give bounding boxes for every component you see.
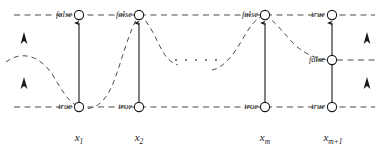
ellipsis-dot (195, 59, 197, 61)
column-xm1-middle-node (327, 55, 336, 64)
figure-canvas: false false false true false true true t… (0, 0, 389, 157)
column-xm (260, 10, 269, 111)
column-x1-top-node (74, 10, 83, 19)
variable-subscript: m (265, 137, 270, 146)
column-x2-bottom-node (134, 102, 143, 111)
ellipsis-dot (185, 59, 187, 61)
ellipsis-dot (175, 59, 177, 61)
column-xm1-top-node (327, 10, 336, 19)
dashed-curve-mid-segment (79, 15, 139, 108)
column-xm1-bottom-node (327, 102, 336, 111)
column-x1-bottom-label: true (38, 102, 72, 111)
variable-label-xm: xm (245, 132, 285, 146)
column-xm-bottom-label: true (224, 102, 258, 111)
column-xm1-top-label: true (289, 10, 325, 19)
variable-subscript: 1 (80, 137, 84, 146)
column-x1-top-label: false (36, 10, 72, 19)
ellipsis-dot (205, 59, 207, 61)
dashed-curve-left-segment (6, 56, 79, 107)
column-x2 (134, 10, 143, 111)
ellipsis-dots (175, 59, 217, 61)
column-x2-top-node (134, 10, 143, 19)
column-xm1-middle-label: false (289, 55, 325, 64)
variable-label-x1: x1 (59, 132, 99, 146)
variable-label-xm1: xm+1 (310, 132, 356, 146)
ellipsis-dot (215, 59, 217, 61)
right-lower-arrow-icon (364, 77, 371, 89)
column-x1 (74, 10, 83, 111)
column-xm-top-label: false (222, 10, 258, 19)
right-upper-arrow-icon (364, 32, 371, 44)
variable-subscript: 2 (140, 137, 144, 146)
dashed-curve-right-of-x2 (139, 15, 178, 65)
column-x2-bottom-label: true (98, 102, 132, 111)
left-upper-arrow-icon (21, 32, 28, 44)
column-xm-top-node (260, 10, 269, 19)
column-x1-bottom-node (74, 102, 83, 111)
left-lower-arrow-icon (21, 77, 28, 89)
winding-dashed-path (6, 15, 331, 108)
variable-label-x2: x2 (119, 132, 159, 146)
column-x2-top-label: false (96, 10, 132, 19)
variable-subscript: m+1 (328, 137, 342, 146)
dashed-curve-approach-xm (212, 15, 265, 70)
column-xm-bottom-node (260, 102, 269, 111)
column-xm1 (327, 10, 336, 111)
column-xm1-bottom-label: true (291, 102, 325, 111)
